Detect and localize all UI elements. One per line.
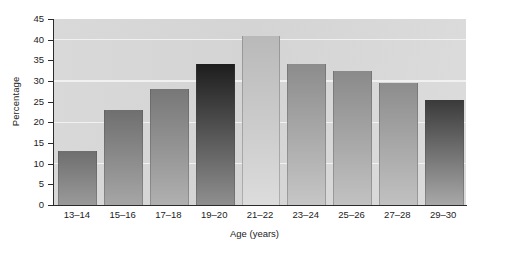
bar: [379, 83, 418, 205]
y-axis-line: [53, 19, 54, 206]
y-axis-tick-label: 30: [18, 76, 44, 86]
y-axis-tick-label: 40: [18, 35, 44, 45]
bar: [104, 110, 143, 205]
x-axis-tick-label: 25–26: [329, 210, 375, 220]
caption-fragment: [0, 244, 509, 253]
y-axis-tick: [48, 122, 53, 123]
x-axis-tick-label: 29–30: [420, 210, 466, 220]
y-axis-tick-label: 20: [18, 117, 44, 127]
y-axis-tick: [48, 81, 53, 82]
y-axis-tick: [48, 184, 53, 185]
x-axis-tick-label: 21–22: [237, 210, 283, 220]
plot-area: [54, 19, 466, 205]
y-axis-tick: [48, 143, 53, 144]
x-axis-tick-label: 27–28: [374, 210, 420, 220]
x-axis-line: [53, 205, 467, 206]
bar: [242, 36, 281, 205]
x-axis-tick-label: 13–14: [54, 210, 100, 220]
bar: [150, 89, 189, 205]
bar: [425, 100, 464, 205]
y-axis-tick-label: 35: [18, 55, 44, 65]
x-axis-title: Age (years): [0, 228, 509, 239]
bar: [196, 64, 235, 205]
bar: [58, 151, 97, 205]
y-axis-tick: [48, 164, 53, 165]
x-axis-tick-label: 17–18: [146, 210, 192, 220]
y-axis-tick-label: 0: [18, 200, 44, 210]
y-axis-tick-label: 5: [18, 179, 44, 189]
x-axis-tick-label: 15–16: [100, 210, 146, 220]
x-axis-tick-label: 19–20: [191, 210, 237, 220]
y-axis-tick: [48, 60, 53, 61]
y-axis-tick: [48, 19, 53, 20]
y-axis-tick-label: 25: [18, 97, 44, 107]
y-axis-tick-label: 10: [18, 159, 44, 169]
bar: [333, 71, 372, 205]
y-axis-tick: [48, 205, 53, 206]
y-axis-tick: [48, 40, 53, 41]
y-axis-tick: [48, 102, 53, 103]
x-axis-tick-label: 23–24: [283, 210, 329, 220]
bar: [287, 64, 326, 205]
bar-chart-figure: Percentage 051015202530354045 13–1415–16…: [0, 0, 509, 253]
y-axis-tick-label: 15: [18, 138, 44, 148]
y-axis-tick-label: 45: [18, 14, 44, 24]
